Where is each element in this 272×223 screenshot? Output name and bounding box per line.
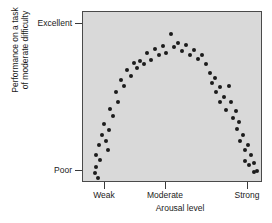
- scatter-point: [180, 49, 184, 53]
- scatter-point: [98, 158, 102, 162]
- scatter-point: [145, 51, 149, 55]
- scatter-point: [192, 48, 196, 52]
- scatter-point: [94, 165, 98, 169]
- scatter-point: [142, 62, 146, 66]
- scatter-point: [204, 62, 208, 66]
- scatter-point: [188, 53, 192, 57]
- scatter-point: [116, 100, 120, 104]
- scatter-points-layer: [83, 12, 261, 181]
- scatter-point: [129, 74, 133, 78]
- scatter-point: [125, 68, 129, 72]
- scatter-point: [231, 116, 235, 120]
- x-tick-mark-weak: [104, 182, 105, 189]
- scatter-point: [119, 78, 123, 82]
- scatter-point: [184, 43, 188, 47]
- y-tick-label-excellent: Excellent: [14, 19, 72, 28]
- y-tick-mark-excellent: [75, 23, 82, 24]
- scatter-point: [227, 84, 231, 88]
- scatter-point: [213, 76, 217, 80]
- scatter-point: [104, 139, 108, 143]
- scatter-point: [111, 114, 115, 118]
- scatter-point: [200, 53, 204, 57]
- scatter-point: [164, 51, 168, 55]
- scatter-point: [210, 81, 214, 85]
- scatter-point: [102, 122, 106, 126]
- scatter-point: [218, 85, 222, 89]
- scatter-point: [241, 133, 245, 137]
- scatter-point: [132, 61, 136, 65]
- scatter-point: [172, 45, 176, 49]
- scatter-point: [238, 139, 242, 143]
- x-tick-label-strong: Strong: [234, 190, 259, 200]
- scatter-point: [218, 100, 222, 104]
- plot-area: [82, 11, 262, 182]
- scatter-point: [214, 90, 218, 94]
- scatter-point: [114, 90, 118, 94]
- scatter-point: [249, 153, 253, 157]
- scatter-point: [94, 153, 98, 157]
- x-tick-mark-strong: [247, 182, 248, 189]
- scatter-point: [255, 169, 259, 173]
- scatter-point: [169, 32, 173, 36]
- scatter-point: [234, 109, 238, 113]
- scatter-point: [107, 128, 111, 132]
- scatter-point: [153, 47, 157, 51]
- scatter-point: [196, 57, 200, 61]
- y-tick-mark-poor: [75, 170, 82, 171]
- scatter-point: [237, 120, 241, 124]
- scatter-point: [246, 143, 250, 147]
- scatter-point: [161, 44, 165, 48]
- scatter-point: [96, 176, 100, 180]
- scatter-point: [122, 84, 126, 88]
- scatter-point: [157, 53, 161, 57]
- scatter-point: [93, 171, 97, 175]
- x-axis-title: Arousal level: [0, 203, 272, 213]
- scatter-point: [97, 143, 101, 147]
- scatter-chart-figure: Performance on a task of moderate diffic…: [0, 0, 272, 223]
- scatter-point: [243, 148, 247, 152]
- x-tick-mark-moderate: [165, 182, 166, 189]
- scatter-point: [149, 58, 153, 62]
- scatter-point: [224, 108, 228, 112]
- scatter-point: [106, 148, 110, 152]
- scatter-point: [135, 66, 139, 70]
- y-tick-label-poor: Poor: [14, 166, 72, 175]
- scatter-point: [252, 161, 256, 165]
- scatter-point: [176, 41, 180, 45]
- scatter-point: [222, 95, 226, 99]
- scatter-point: [108, 107, 112, 111]
- scatter-point: [235, 127, 239, 131]
- scatter-point: [229, 100, 233, 104]
- x-tick-label-weak: Weak: [93, 190, 115, 200]
- x-tick-label-moderate: Moderate: [147, 190, 183, 200]
- scatter-point: [247, 163, 251, 167]
- scatter-point: [100, 133, 104, 137]
- scatter-point: [243, 159, 247, 163]
- scatter-point: [208, 71, 212, 75]
